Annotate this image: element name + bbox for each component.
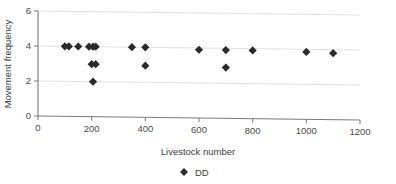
x-tick-label-1000: 1000	[296, 125, 317, 136]
y-axis-title: Movement frequency	[2, 19, 13, 108]
y-tick-label-0: 0	[26, 110, 31, 121]
chart-container: 020040060080010001200 0246 Livestock num…	[0, 0, 396, 184]
legend-label-dd: DD	[195, 167, 209, 178]
x-tick-label-600: 600	[191, 124, 207, 135]
y-tick-label-4: 4	[26, 40, 31, 51]
y-tick-label-2: 2	[26, 75, 31, 86]
x-tick-label-0: 0	[35, 122, 40, 133]
x-tick-label-400: 400	[137, 123, 153, 134]
x-axis-title: Livestock number	[161, 146, 235, 157]
x-tick-label-800: 800	[245, 125, 261, 136]
x-tick-label-200: 200	[84, 123, 100, 134]
y-tick-label-6: 6	[26, 5, 31, 16]
x-tick-label-1200: 1200	[349, 126, 370, 137]
scatter-plot-figure: 020040060080010001200 0246 Livestock num…	[0, 0, 396, 184]
